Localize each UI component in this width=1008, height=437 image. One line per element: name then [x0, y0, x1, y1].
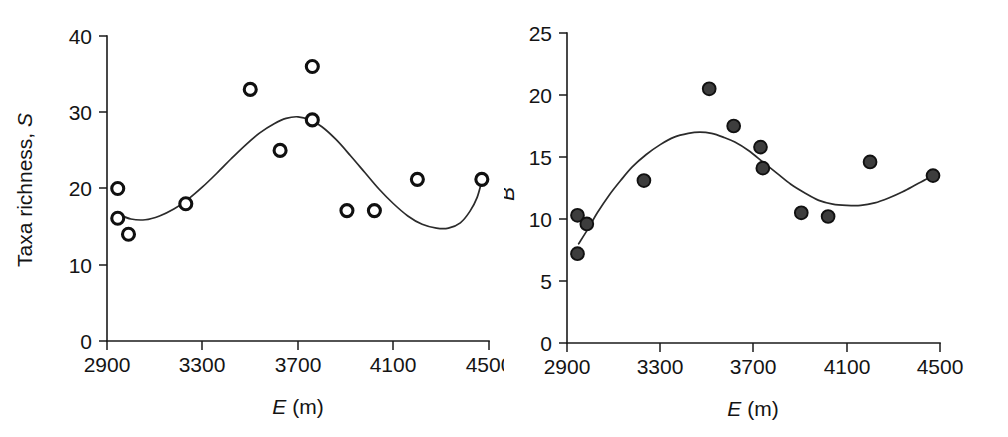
x-axis-title-unit: (m)	[747, 397, 778, 420]
y-axis-title-text: Taxa richness,	[13, 133, 36, 267]
data-point	[306, 114, 318, 126]
y-ticklabel: 5	[540, 270, 552, 293]
y-axis-right: 25 20 15 10 5 0	[529, 22, 567, 355]
x-axis-title-symbol: E	[727, 397, 742, 420]
x-axis-title-symbol: E	[272, 395, 287, 418]
fit-curve-left	[119, 117, 482, 229]
data-point	[180, 198, 192, 210]
y-ticklabel: 15	[529, 146, 552, 169]
x-axis-ticklabels-left: 2900 3300 3700 4100 4500	[84, 353, 504, 376]
x-ticklabel: 2900	[84, 353, 131, 376]
data-point	[580, 218, 593, 231]
y-axis-title-left: Taxa richness, S	[13, 113, 36, 267]
x-ticklabel: 3700	[275, 353, 322, 376]
data-point	[244, 83, 256, 95]
y-ticklabel: 20	[529, 84, 552, 107]
data-point	[756, 162, 769, 175]
data-point	[112, 212, 124, 224]
x-axis-title-unit: (m)	[292, 395, 323, 418]
data-point	[341, 205, 353, 217]
x-axis-ticks-left	[107, 341, 489, 350]
chart-panel-right: 25 20 15 10 5 0 2900	[504, 0, 1008, 437]
x-axis-ticks-right	[567, 343, 940, 352]
data-point	[795, 206, 808, 219]
x-axis-title-right: E (m)	[727, 397, 778, 420]
x-axis-ticklabels-right: 2900 3300 3700 4100 4500	[544, 355, 964, 378]
data-point	[306, 61, 318, 73]
x-ticklabel: 3300	[179, 353, 226, 376]
y-ticklabel: 30	[69, 101, 92, 124]
x-ticklabel: 3700	[730, 355, 777, 378]
data-point	[112, 183, 124, 195]
y-ticklabel: 40	[69, 25, 92, 48]
chart-panel-left: 40 30 20 10 0 2900 3300	[0, 0, 504, 437]
x-ticklabel: 2900	[544, 355, 591, 378]
chart-svg-right: 25 20 15 10 5 0 2900	[504, 0, 1008, 437]
data-point	[122, 228, 134, 240]
chart-svg-left: 40 30 20 10 0 2900 3300	[0, 0, 504, 437]
x-ticklabel: 4100	[370, 353, 417, 376]
data-point	[822, 210, 835, 223]
data-point	[864, 156, 877, 169]
x-axis-left: 2900 3300 3700 4100 4500	[84, 341, 504, 376]
data-point	[703, 82, 716, 95]
y-ticklabel: 10	[69, 254, 92, 277]
x-axis-right: 2900 3300 3700 4100 4500	[544, 343, 964, 378]
data-point	[411, 173, 423, 185]
y-axis-ticks-left	[99, 36, 107, 341]
y-axis-title-symbol: S	[13, 113, 36, 127]
data-point	[754, 141, 767, 154]
data-point	[571, 247, 584, 260]
y-ticklabel: 25	[529, 22, 552, 45]
y-ticklabel: 10	[529, 208, 552, 231]
y-axis-ticklabels-right: 25 20 15 10 5 0	[529, 22, 552, 355]
y-axis-ticklabels-left: 40 30 20 10 0	[69, 25, 92, 353]
y-axis-left: 40 30 20 10 0	[69, 25, 107, 353]
y-ticklabel: 0	[540, 332, 552, 355]
data-point	[476, 173, 488, 185]
data-points-left	[112, 61, 488, 241]
data-point	[927, 169, 940, 182]
y-axis-ticks-right	[559, 33, 567, 343]
y-axis-title-right: B	[504, 187, 518, 201]
figure-container: 40 30 20 10 0 2900 3300	[0, 0, 1008, 437]
data-point	[274, 144, 286, 156]
y-ticklabel: 20	[69, 177, 92, 200]
data-point	[638, 174, 651, 187]
data-point	[368, 205, 380, 217]
x-ticklabel: 4500	[466, 353, 504, 376]
data-point	[727, 120, 740, 133]
data-points-right	[571, 82, 939, 260]
x-ticklabel: 4100	[824, 355, 871, 378]
x-ticklabel: 4500	[917, 355, 964, 378]
x-ticklabel: 3300	[637, 355, 684, 378]
x-axis-title-left: E (m)	[272, 395, 323, 418]
y-ticklabel: 0	[80, 330, 92, 353]
